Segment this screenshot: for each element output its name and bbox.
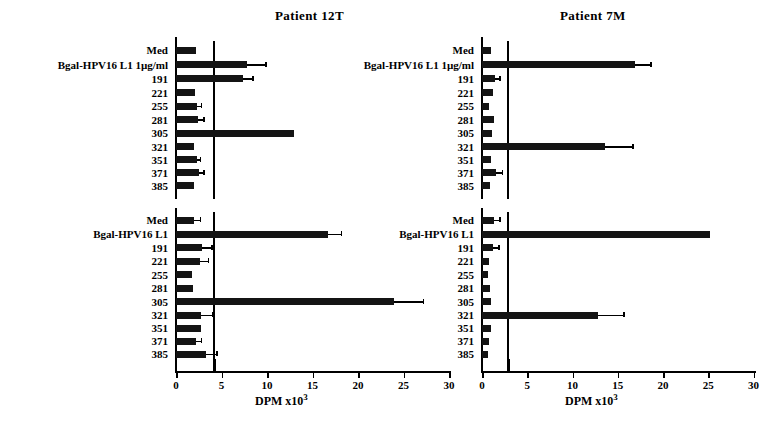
- bar-patient-7m-bottom-6: [482, 298, 491, 305]
- x-axis-tick-left-10: [267, 373, 269, 378]
- x-axis-tick-label-right-5: 5: [515, 379, 539, 391]
- x-axis-tick-label-right-30: 30: [742, 379, 766, 391]
- bar-patient-12t-top-9: [176, 169, 199, 176]
- x-axis-tick-left-0: [176, 373, 178, 378]
- bar-patient-12t-bottom-1: [176, 231, 328, 238]
- error-bar-cap-patient-7m-top-1: [650, 62, 652, 67]
- bar-patient-7m-top-0: [482, 47, 491, 54]
- x-axis-tick-label-left-20: 20: [346, 379, 370, 391]
- error-bar-cap-patient-12t-bottom-1: [341, 231, 343, 236]
- error-bar-cap-patient-12t-bottom-3: [208, 258, 210, 263]
- error-bar-cap-patient-12t-bottom-2: [211, 245, 213, 250]
- error-bar-cap-patient-12t-top-8: [200, 157, 202, 162]
- bar-patient-7m-top-3: [482, 89, 493, 96]
- bar-patient-7m-bottom-10: [482, 351, 488, 358]
- error-bar-patient-12t-bottom-2: [202, 247, 211, 249]
- bar-patient-7m-top-7: [482, 143, 605, 150]
- bar-patient-7m-top-8: [482, 156, 491, 163]
- row-label-patient-7m-bottom-3: 221: [458, 255, 475, 267]
- bar-patient-12t-top-2: [176, 75, 243, 82]
- x-axis-tick-right-5: [527, 373, 529, 378]
- row-label-patient-7m-top-0: Med: [453, 44, 474, 56]
- x-axis-tick-label-left-25: 25: [392, 379, 416, 391]
- error-bar-cap-patient-7m-bottom-7: [623, 312, 625, 317]
- row-label-patient-7m-top-3: 221: [458, 87, 475, 99]
- row-label-patient-12t-top-1: Bgal-HPV16 L1 1µg/ml: [58, 59, 168, 71]
- bar-patient-12t-top-3: [176, 89, 195, 96]
- row-label-patient-7m-bottom-2: 191: [458, 242, 475, 254]
- x-axis-title-right-text: DPM x10: [565, 394, 613, 408]
- bar-patient-12t-bottom-6: [176, 298, 394, 305]
- x-axis-tick-label-left-0: 0: [164, 379, 188, 391]
- panel-title-patient-12t: Patient 12T: [275, 8, 344, 24]
- row-label-patient-7m-top-7: 321: [458, 141, 475, 153]
- bar-patient-12t-bottom-8: [176, 325, 201, 332]
- x-axis-title-left-exponent: 3: [303, 392, 308, 402]
- bar-patient-7m-bottom-7: [482, 312, 598, 319]
- row-label-patient-7m-top-1: Bgal-HPV16 L1 1µg/ml: [364, 59, 474, 71]
- row-label-patient-12t-bottom-2: 191: [152, 242, 169, 254]
- x-axis-tick-label-right-25: 25: [696, 379, 720, 391]
- row-label-patient-12t-bottom-4: 255: [152, 269, 169, 281]
- row-label-patient-7m-bottom-10: 385: [458, 348, 475, 360]
- bar-patient-7m-bottom-0: [482, 217, 494, 224]
- bar-patient-12t-top-10: [176, 182, 194, 189]
- x-axis-tick-right-15: [618, 373, 620, 378]
- bar-patient-7m-bottom-1: [482, 231, 710, 238]
- x-axis-tick-right-10: [573, 373, 575, 378]
- bar-patient-12t-top-1: [176, 61, 247, 68]
- row-label-patient-12t-top-10: 385: [152, 180, 169, 192]
- row-label-patient-12t-top-6: 305: [152, 127, 169, 139]
- error-bar-cap-patient-12t-bottom-0: [200, 217, 202, 222]
- error-bar-patient-12t-bottom-3: [200, 261, 208, 263]
- x-axis-tick-right-0: [482, 373, 484, 378]
- error-bar-patient-12t-top-1: [247, 64, 265, 66]
- row-label-patient-7m-top-8: 351: [458, 154, 475, 166]
- x-axis-tick-right-25: [708, 373, 710, 378]
- bar-patient-12t-bottom-0: [176, 217, 194, 224]
- error-bar-patient-7m-bottom-7: [598, 315, 623, 317]
- x-axis-tick-right-30: [754, 373, 756, 378]
- row-label-patient-12t-top-3: 221: [152, 87, 169, 99]
- row-label-patient-12t-top-4: 255: [152, 100, 169, 112]
- row-label-patient-7m-bottom-0: Med: [453, 214, 474, 226]
- row-label-patient-7m-top-5: 281: [458, 114, 475, 126]
- error-bar-patient-7m-top-7: [605, 146, 632, 148]
- error-bar-cap-patient-12t-top-9: [203, 170, 205, 175]
- axis-break-box-patient-12t-bottom: [175, 359, 216, 373]
- row-label-patient-7m-top-9: 371: [458, 167, 475, 179]
- bar-patient-7m-bottom-5: [482, 285, 490, 292]
- bar-patient-12t-top-5: [176, 116, 198, 123]
- bar-patient-12t-top-7: [176, 143, 194, 150]
- row-label-patient-12t-bottom-10: 385: [152, 348, 169, 360]
- row-label-patient-7m-bottom-5: 281: [458, 282, 475, 294]
- row-label-patient-12t-bottom-5: 281: [152, 282, 169, 294]
- row-label-patient-12t-bottom-1: Bgal-HPV16 L1: [93, 228, 168, 240]
- error-bar-patient-7m-top-1: [635, 64, 650, 66]
- error-bar-cap-patient-7m-bottom-0: [499, 217, 501, 222]
- x-axis-title-right-exponent: 3: [613, 392, 618, 402]
- panel-title-patient-7m: Patient 7M: [560, 8, 626, 24]
- bar-patient-12t-top-4: [176, 103, 197, 110]
- bar-patient-7m-top-2: [482, 75, 495, 82]
- bar-patient-12t-top-6: [176, 130, 294, 137]
- bar-patient-12t-bottom-3: [176, 258, 200, 265]
- bar-patient-7m-bottom-3: [482, 258, 489, 265]
- bar-patient-12t-bottom-2: [176, 244, 202, 251]
- bar-patient-7m-bottom-8: [482, 325, 491, 332]
- row-label-patient-7m-bottom-9: 371: [458, 335, 475, 347]
- row-label-patient-12t-bottom-9: 371: [152, 335, 169, 347]
- error-bar-patient-12t-bottom-7: [201, 315, 212, 317]
- bar-patient-12t-bottom-4: [176, 271, 192, 278]
- x-axis-tick-label-right-10: 10: [561, 379, 585, 391]
- bar-patient-7m-top-5: [482, 116, 494, 123]
- axis-break-box-patient-7m-bottom: [481, 359, 510, 373]
- error-bar-patient-12t-bottom-6: [394, 301, 422, 303]
- row-label-patient-12t-bottom-0: Med: [147, 214, 168, 226]
- row-label-patient-12t-top-7: 321: [152, 141, 169, 153]
- row-label-patient-7m-bottom-4: 255: [458, 269, 475, 281]
- bar-patient-7m-bottom-9: [482, 338, 489, 345]
- x-axis-title-right: DPM x103: [565, 392, 618, 409]
- x-axis-tick-label-right-15: 15: [606, 379, 630, 391]
- bar-patient-12t-bottom-5: [176, 285, 193, 292]
